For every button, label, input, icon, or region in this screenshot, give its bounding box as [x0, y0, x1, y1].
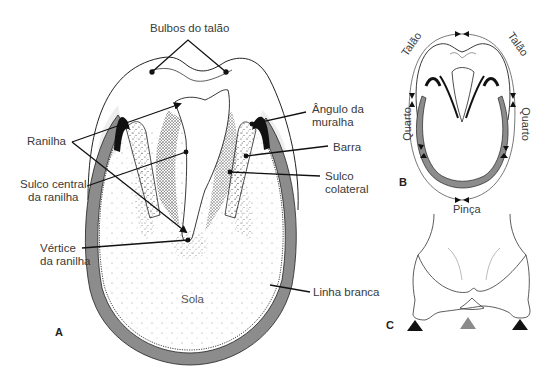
label-sulco-colateral-line1: Sulco: [325, 170, 354, 183]
label-sulco-central-line2: da ranilha: [28, 191, 79, 204]
label-vertice-line2: da ranilha: [40, 255, 91, 268]
panel-letter-c: C: [386, 319, 394, 331]
right-heel-marker: [512, 319, 528, 330]
panel-letter-b: B: [399, 176, 407, 188]
label-ranilha: Ranilha: [27, 135, 66, 148]
panel-a-hoof: [85, 57, 298, 365]
label-barra: Barra: [333, 141, 361, 154]
label-pinca: Pinça: [453, 203, 481, 216]
label-angulo-line1: Ângulo da: [312, 103, 364, 116]
label-angulo-line2: muralha: [312, 116, 354, 129]
left-heel-marker: [407, 320, 423, 331]
label-sulco-central-line1: Sulco central: [20, 178, 86, 191]
panel-b-hoof: [409, 31, 516, 203]
label-vertice-line1: Vértice: [40, 242, 76, 255]
panel-c-markers: [407, 317, 528, 331]
panel-c-heel-view: [413, 214, 530, 320]
panel-letter-a: A: [55, 326, 63, 338]
label-sulco-colateral-line2: colateral: [325, 183, 368, 196]
label-quarto-right: Quarto: [520, 107, 532, 141]
label-quarto-left: Quarto: [401, 107, 413, 141]
label-bulbos-do-talao: Bulbos do talão: [150, 22, 229, 35]
center-frog-marker: [460, 317, 476, 329]
label-sola: Sola: [181, 293, 204, 306]
label-linha-branca: Linha branca: [313, 286, 380, 299]
